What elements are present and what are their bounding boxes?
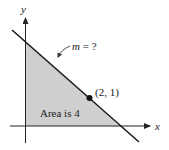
y-axis-label: y — [20, 3, 26, 15]
point-label: (2, 1) — [95, 86, 119, 99]
area-label: Area is 4 — [40, 107, 80, 119]
slope-var: m — [72, 40, 80, 52]
slope-pointer-arrow — [58, 46, 70, 57]
x-axis-label: x — [154, 120, 160, 132]
coordinate-diagram: y x m = ? (2, 1) Area is 4 — [0, 0, 169, 150]
slope-label: m = ? — [72, 40, 97, 52]
point-marker — [87, 95, 93, 101]
slope-rest: = ? — [80, 40, 97, 52]
